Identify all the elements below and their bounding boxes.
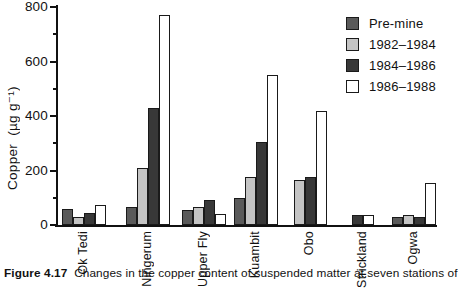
figure-caption: Figure 4.17 Changes in the copper conten…: [4, 266, 434, 280]
legend-swatch-pre-mine: [346, 17, 359, 30]
bar-kuambit-1984-1986: [256, 142, 267, 225]
y-axis-label: Copper (µg g⁻¹): [4, 58, 22, 218]
bar-kuambit-1982-1984: [245, 177, 256, 225]
y-tick-label-800: 800: [12, 0, 48, 14]
legend-item-pre-mine: Pre-mine: [346, 17, 436, 30]
legend-item-1986-1988: 1986–1988: [346, 80, 436, 93]
y-tick-label-200: 200: [12, 163, 48, 178]
bar-ningerum-1984-1986: [148, 108, 159, 225]
bar-obo-1982-1984: [294, 180, 305, 225]
bar-ogwa-pre-mine: [392, 217, 403, 225]
legend-label-1982-1984: 1982–1984: [369, 37, 436, 52]
bar-ok-tedi-1984-1986: [84, 213, 95, 225]
x-axis-line: [55, 225, 437, 227]
bar-ok-tedi-1986-1988: [95, 205, 106, 225]
bar-ok-tedi-pre-mine: [62, 209, 73, 225]
bar-obo-1986-1988: [316, 111, 327, 225]
legend-swatch-1984-1986: [346, 59, 359, 72]
bar-kuambit-pre-mine: [234, 198, 245, 225]
figure-caption-label: Figure 4.17: [4, 266, 67, 280]
bar-upper-fly-pre-mine: [182, 210, 193, 225]
x-label-obo: Obo: [302, 231, 317, 255]
legend-label-pre-mine: Pre-mine: [369, 16, 423, 31]
legend: Pre-mine1982–19841984–19861986–1988: [346, 17, 436, 93]
bar-ningerum-pre-mine: [126, 207, 137, 225]
bar-strickland-1984-1986: [352, 215, 363, 225]
bar-kuambit-1986-1988: [267, 75, 278, 225]
bar-ningerum-1986-1988: [159, 15, 170, 225]
y-axis-line: [56, 5, 58, 226]
bar-upper-fly-1984-1986: [204, 200, 215, 225]
legend-item-1982-1984: 1982–1984: [346, 38, 436, 51]
bar-ogwa-1984-1986: [414, 217, 425, 225]
legend-label-1984-1986: 1984–1986: [369, 58, 436, 73]
y-tick-label-400: 400: [12, 108, 48, 123]
x-label-ogwa: Ogwa: [406, 231, 421, 264]
legend-label-1986-1988: 1986–1988: [369, 79, 436, 94]
bar-ningerum-1982-1984: [137, 168, 148, 225]
y-tick-label-600: 600: [12, 54, 48, 69]
bar-upper-fly-1986-1988: [215, 214, 226, 225]
figure-caption-text: Changes in the copper content of suspend…: [74, 266, 457, 280]
bar-ogwa-1982-1984: [403, 215, 414, 225]
bar-ogwa-1986-1988: [425, 183, 436, 225]
bar-upper-fly-1982-1984: [193, 207, 204, 225]
y-tick-label-0: 0: [12, 217, 48, 232]
bar-obo-1984-1986: [305, 177, 316, 225]
legend-swatch-1982-1984: [346, 38, 359, 51]
legend-item-1984-1986: 1984–1986: [346, 59, 436, 72]
bar-strickland-1986-1988: [363, 215, 374, 225]
bar-ok-tedi-1982-1984: [73, 217, 84, 225]
legend-swatch-1986-1988: [346, 80, 359, 93]
